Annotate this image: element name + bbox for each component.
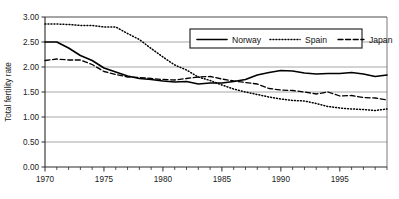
x-tick-label: 1975 [95, 175, 114, 184]
y-tick-label: 1.50 [23, 88, 39, 97]
y-tick-label: 2.00 [23, 63, 39, 72]
legend-label-spain: Spain [305, 35, 327, 45]
legend-label-japan: Japan [369, 35, 393, 45]
fertility-rate-line-chart: 0.000.501.001.502.002.503.00 19701975198… [0, 0, 399, 199]
y-tick-label: 2.50 [23, 38, 39, 47]
legend-label-norway: Norway [232, 35, 262, 45]
chart-legend: NorwaySpainJapan [190, 29, 393, 48]
x-tick-label: 1985 [213, 175, 232, 184]
x-tick-label: 1970 [36, 175, 55, 184]
x-tick-label: 1990 [272, 175, 291, 184]
y-tick-label: 0.50 [23, 138, 39, 147]
y-axis-title: Total fertility rate [4, 62, 13, 122]
y-tick-label: 3.00 [23, 13, 39, 22]
y-tick-label: 0.00 [23, 163, 39, 172]
x-tick-label: 1995 [331, 175, 350, 184]
x-tick-label: 1980 [154, 175, 173, 184]
y-tick-label: 1.00 [23, 113, 39, 122]
legend-box-border [190, 29, 362, 48]
chart-canvas: 0.000.501.001.502.002.503.00 19701975198… [0, 0, 399, 199]
